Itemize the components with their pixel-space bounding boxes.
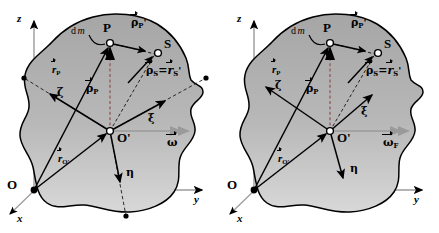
body-origin-O-prime-label: O' bbox=[337, 131, 351, 144]
r-P-subscript: P bbox=[276, 69, 280, 76]
omega-F-subscript: F bbox=[393, 142, 398, 150]
omega-F-symbol: ω bbox=[383, 137, 393, 148]
r-S-prime-subscript: S bbox=[393, 70, 398, 78]
zeta-axis-label: ζ bbox=[57, 87, 64, 98]
rho-S-equals-r-S-prime-label: ρS=rS' bbox=[146, 65, 181, 76]
body-origin-O-prime-label: O' bbox=[117, 131, 131, 144]
x-axis-label: x bbox=[17, 213, 23, 224]
r-S-prime-mark: ' bbox=[398, 65, 401, 76]
origin-O-label: O bbox=[227, 178, 237, 191]
point-P-marker bbox=[107, 40, 114, 47]
dm-m-glyph: m bbox=[78, 25, 85, 36]
r-O-prime-vector-label: rO' bbox=[278, 153, 289, 164]
xi-axis-label: ξ bbox=[148, 113, 155, 124]
point-P-marker bbox=[327, 40, 334, 47]
r-P-vector-label: rP bbox=[52, 64, 60, 75]
mass-element-label: dm bbox=[71, 26, 85, 36]
xi-boundary-dot bbox=[203, 75, 208, 80]
rho-P-prime-vector-label: ρP' bbox=[131, 17, 146, 28]
point-S-marker bbox=[155, 50, 162, 57]
equals-sign: = bbox=[378, 64, 387, 77]
r-P-vector-label: rP bbox=[272, 64, 280, 75]
point-O-prime-marker bbox=[107, 128, 114, 135]
r-S-prime-mark: ' bbox=[178, 65, 181, 76]
panel-left: z y x O O' P S dm rP ρP ρP' ρS=rS' rO' ζ… bbox=[0, 0, 219, 233]
zeta-boundary-dot bbox=[21, 75, 26, 80]
point-O-prime-marker bbox=[327, 128, 334, 135]
z-axis-label: z bbox=[237, 13, 241, 24]
panel-right: z y x O O' P S dm rP ρP ρP' ρS=rS' rO' ζ… bbox=[220, 0, 439, 233]
rho-S-equals-r-S-prime-label: ρS=rS' bbox=[366, 65, 401, 76]
eta-axis-label: η bbox=[350, 163, 358, 174]
point-S-marker bbox=[375, 50, 382, 57]
omega-vector-label: ω bbox=[167, 137, 177, 148]
point-O-marker bbox=[251, 187, 258, 194]
point-P-label: P bbox=[103, 21, 111, 34]
origin-O-label: O bbox=[7, 178, 17, 191]
omega-symbol: ω bbox=[167, 137, 177, 148]
r-P-subscript: P bbox=[56, 69, 60, 76]
z-axis-label: z bbox=[17, 13, 21, 24]
eta-axis-label: η bbox=[126, 167, 134, 178]
dm-m-glyph: m bbox=[298, 25, 305, 36]
r-S-prime-subscript: S bbox=[173, 70, 178, 78]
y-axis-label: y bbox=[194, 194, 199, 205]
rho-P-subscript: P bbox=[93, 88, 98, 96]
equals-sign: = bbox=[158, 64, 167, 77]
rho-P-prime-mark: ' bbox=[143, 17, 146, 28]
point-P-label: P bbox=[323, 21, 331, 34]
xi-axis-label: ξ bbox=[361, 106, 368, 117]
rho-P-vector-label: ρP bbox=[306, 83, 318, 94]
eta-boundary-dot bbox=[123, 213, 128, 218]
figure-root: z y x O O' P S dm rP ρP ρP' ρS=rS' rO' ζ… bbox=[0, 0, 439, 233]
r-O-prime-subscript: O' bbox=[282, 158, 289, 165]
point-S-label: S bbox=[384, 37, 391, 50]
point-S-label: S bbox=[164, 37, 171, 50]
x-axis-label: x bbox=[237, 213, 243, 224]
rho-P-prime-vector-label: ρP' bbox=[351, 17, 366, 28]
zeta-axis-label: ζ bbox=[275, 80, 282, 91]
rho-P-prime-subscript: P bbox=[138, 22, 143, 30]
dm-d-glyph: d bbox=[291, 25, 296, 36]
y-axis-label: y bbox=[414, 194, 419, 205]
r-O-prime-vector-label: rO' bbox=[58, 153, 69, 164]
rho-P-vector-label: ρP bbox=[86, 83, 98, 94]
dm-d-glyph: d bbox=[71, 25, 76, 36]
point-O-marker bbox=[31, 187, 38, 194]
rho-S-subscript: S bbox=[373, 70, 378, 78]
r-O-prime-subscript: O' bbox=[62, 158, 69, 165]
mass-element-label: dm bbox=[291, 26, 305, 36]
rho-P-subscript: P bbox=[313, 88, 318, 96]
rho-P-prime-subscript: P bbox=[358, 22, 363, 30]
rho-P-prime-mark: ' bbox=[363, 17, 366, 28]
omega-F-vector-label: ωF bbox=[383, 137, 398, 148]
rho-S-subscript: S bbox=[153, 70, 158, 78]
